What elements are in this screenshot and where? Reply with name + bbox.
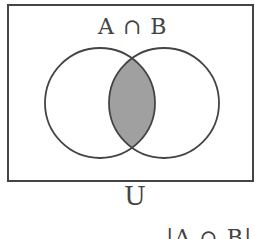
intersection-title: A ∩ B bbox=[98, 16, 167, 38]
universe-label: U bbox=[124, 183, 146, 209]
cardinality-caption: |A ∩ B| bbox=[166, 227, 252, 239]
